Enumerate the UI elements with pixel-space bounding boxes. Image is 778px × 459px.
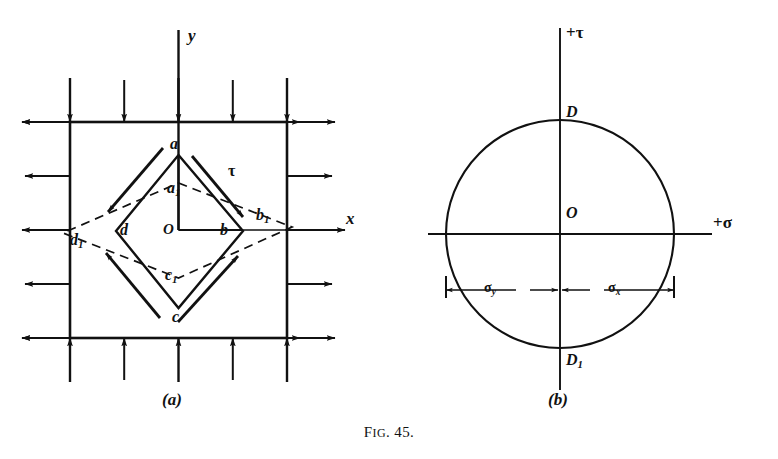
figure-45: y x a a1 b b1 c c1 d d1 O τ (a) +τ +σ D … [0, 0, 778, 459]
point-label-d: d [120, 222, 128, 238]
point-label-d1: d1 [70, 232, 83, 250]
panel-b-caption: (b) [548, 391, 568, 408]
point-label-a1: a1 [167, 180, 180, 198]
point-label-a1-sub: 1 [175, 186, 180, 198]
point-label-a1-base: a [167, 179, 175, 196]
origin-label-b: O [566, 205, 578, 221]
bottom-compression-arrows [70, 338, 287, 382]
figure-drawing-canvas [0, 0, 778, 459]
figure-caption-prefix: F [364, 424, 373, 440]
point-label-D1: D1 [566, 352, 583, 370]
point-label-D: D [566, 104, 578, 120]
sigma-x-base: σ [608, 280, 616, 295]
point-label-b1-base: b [256, 206, 264, 223]
sigma-y-dimension-label: σy [484, 281, 496, 297]
sigma-axis-label: +σ [713, 214, 732, 231]
figure-caption-number: . 45. [386, 424, 414, 440]
panel-a-caption: (a) [162, 391, 182, 408]
point-label-b1: b1 [256, 207, 269, 225]
point-label-b: b [220, 222, 228, 238]
x-axis-label: x [346, 210, 355, 227]
tau-axis-label: +τ [566, 24, 584, 41]
panel-a-drawing [22, 30, 345, 382]
sigma-y-sub: y [492, 287, 496, 297]
sigma-x-sub: x [616, 287, 621, 297]
point-label-D1-sub: 1 [578, 358, 583, 370]
figure-caption: FIG. 45. [0, 424, 778, 441]
point-label-d1-sub: 1 [78, 238, 83, 250]
point-label-D1-base: D [566, 351, 578, 368]
sigma-y-base: σ [484, 280, 492, 295]
point-label-d1-base: d [70, 231, 78, 248]
sigma-x-dimension-label: σx [608, 281, 620, 297]
point-label-c1: c1 [165, 267, 178, 285]
point-label-a: a [170, 136, 178, 152]
point-label-c: c [172, 309, 179, 325]
right-tension-arrows [287, 122, 345, 338]
shear-stress-label-tau: τ [228, 163, 235, 179]
point-label-b1-sub: 1 [264, 213, 269, 225]
y-axis-label: y [188, 27, 196, 44]
figure-caption-smallcaps: IG [373, 426, 386, 440]
origin-label-a: O [163, 222, 174, 237]
point-label-c1-sub: 1 [172, 273, 177, 285]
left-tension-arrows [22, 122, 70, 338]
top-compression-arrows [70, 78, 287, 122]
